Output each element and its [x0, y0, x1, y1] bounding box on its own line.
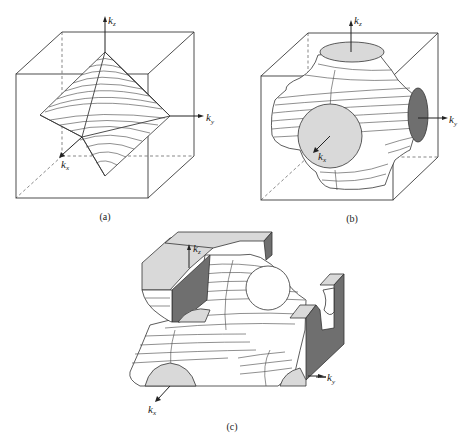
ky-arrow-icon	[442, 116, 448, 120]
kx-label-a: kx	[61, 158, 70, 172]
caption-b: (b)	[346, 213, 358, 225]
figure-canvas: kz ky kx (a)	[0, 0, 470, 448]
kz-label-b: kz	[354, 14, 362, 28]
panel-a: kz ky kx (a)	[16, 14, 215, 223]
panel-c: kz ky kx (c)	[130, 232, 344, 433]
ky-label-c: ky	[327, 371, 336, 386]
top-contact-disc	[320, 42, 384, 62]
ky-arrow-icon	[198, 114, 204, 118]
kz-arrow-icon	[349, 20, 353, 26]
right-contact-disc	[408, 88, 428, 142]
ky-label-a: ky	[206, 111, 215, 126]
panel-b: kz ky kx (b)	[261, 14, 458, 225]
ky-label-b: ky	[449, 113, 458, 128]
caption-c: (c)	[226, 421, 237, 433]
kz-label-a: kz	[108, 14, 116, 28]
caption-a: (a)	[99, 211, 110, 223]
kx-label-c: kx	[148, 403, 157, 417]
neck-hole	[246, 266, 290, 310]
kz-arrow-icon	[103, 16, 107, 22]
